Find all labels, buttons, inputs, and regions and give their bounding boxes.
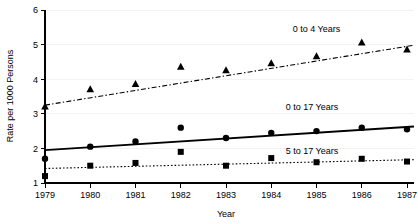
x-tick-label: 1981	[125, 190, 145, 200]
y-axis-title: Rate per 1000 Persons	[5, 49, 15, 142]
x-tick-label: 1986	[352, 190, 372, 200]
data-point-triangle	[358, 39, 366, 46]
data-point-circle	[268, 130, 274, 136]
x-tick-label: 1983	[216, 190, 236, 200]
x-tick-label: 1982	[171, 190, 191, 200]
trend-line-triangle	[45, 45, 414, 105]
data-point-square	[178, 149, 184, 155]
series-label: 0 to 17 Years	[286, 102, 339, 112]
y-tick-label: 2	[33, 144, 38, 154]
data-point-circle	[178, 124, 184, 130]
data-point-triangle	[267, 59, 275, 66]
data-point-square	[87, 163, 93, 169]
data-point-triangle	[86, 85, 94, 92]
x-axis: 197919801981198219831984198519861987	[35, 183, 417, 200]
data-point-square	[404, 159, 410, 165]
data-point-circle	[42, 156, 48, 162]
y-tick-label: 6	[33, 5, 38, 15]
data-point-square	[268, 155, 274, 161]
data-point-circle	[87, 143, 93, 149]
x-tick-label: 1979	[35, 190, 55, 200]
series-label: 0 to 4 Years	[293, 24, 341, 34]
y-tick-label: 5	[33, 40, 38, 50]
data-point-triangle	[132, 80, 140, 87]
data-point-square	[133, 160, 139, 166]
data-point-square	[359, 156, 365, 162]
data-point-square	[42, 173, 48, 179]
data-point-triangle	[177, 63, 185, 70]
data-point-triangle	[313, 52, 321, 59]
y-tick-label: 4	[33, 75, 38, 85]
x-tick-label: 1985	[306, 190, 326, 200]
line-chart: 123456 197919801981198219831984198519861…	[0, 0, 418, 224]
x-tick-label: 1980	[80, 190, 100, 200]
x-axis-title: Year	[217, 209, 235, 219]
trend-line-circle	[45, 126, 414, 150]
y-tick-label: 1	[33, 178, 38, 188]
series-label: 5 to 17 Years	[286, 146, 339, 156]
data-point-square	[314, 159, 320, 165]
data-point-circle	[359, 124, 365, 130]
y-tick-label: 3	[33, 109, 38, 119]
data-point-circle	[313, 128, 319, 134]
chart-container: 123456 197919801981198219831984198519861…	[0, 0, 418, 224]
x-tick-label: 1987	[397, 190, 417, 200]
data-markers	[41, 39, 411, 180]
data-point-circle	[223, 135, 229, 141]
data-point-circle	[404, 126, 410, 132]
data-point-square	[223, 163, 229, 169]
x-tick-label: 1984	[261, 190, 281, 200]
trend-lines	[45, 45, 414, 168]
data-point-circle	[132, 138, 138, 144]
series-annotations: 0 to 4 Years0 to 17 Years5 to 17 Years	[286, 24, 341, 155]
data-point-triangle	[41, 103, 49, 110]
data-point-triangle	[222, 66, 230, 73]
trend-line-square	[45, 160, 414, 169]
